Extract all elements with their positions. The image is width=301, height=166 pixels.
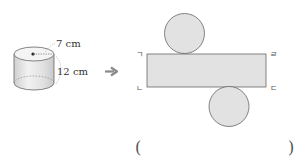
answer-open-paren: ( xyxy=(135,138,141,157)
arrow-icon xyxy=(105,68,117,76)
bottom-circle-base xyxy=(209,87,249,127)
corner-label-top-left: ㄱ xyxy=(136,50,143,59)
lateral-rectangle xyxy=(147,54,266,87)
answer-close-paren: ) xyxy=(288,138,294,157)
corner-label-bottom-left: ㄴ xyxy=(136,84,143,93)
answer-blank[interactable] xyxy=(150,140,280,158)
height-label: 12 cm xyxy=(57,66,89,77)
cylinder-figure xyxy=(14,43,61,90)
corner-label-bottom-right: ㄷ xyxy=(270,84,277,93)
top-circle-base xyxy=(165,14,205,54)
net-figure xyxy=(147,14,266,127)
radius-label: 7 cm xyxy=(56,38,81,49)
corner-label-top-right: ㄹ xyxy=(270,50,277,59)
